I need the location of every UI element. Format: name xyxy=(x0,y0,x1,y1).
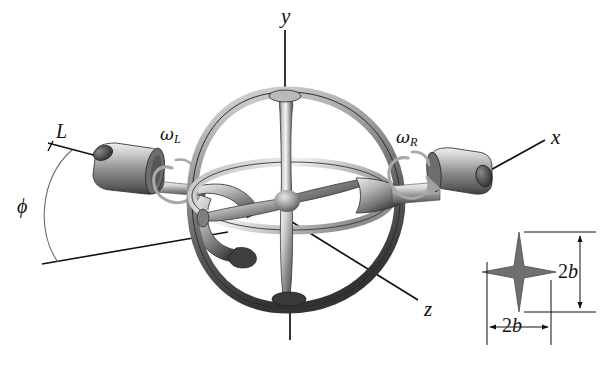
x-axis-line xyxy=(487,140,545,172)
inset-vertical-variable: b xyxy=(568,260,578,282)
inset-horizontal-variable: b xyxy=(512,314,522,336)
omega-L-subscript: L xyxy=(174,132,181,146)
rotor-hub xyxy=(274,190,300,212)
omega-R-label: ωR xyxy=(396,129,417,149)
inset-horizontal-dimension-label: 2b xyxy=(502,315,522,335)
dimension-label-phi: ϕ xyxy=(17,196,27,216)
axis-label-x: x xyxy=(551,127,560,148)
figure-canvas: y x z L ϕ ωL ωR 2b 2b xyxy=(0,0,604,367)
omega-R-symbol: ω xyxy=(396,127,410,147)
inset-vertical-prefix: 2 xyxy=(558,260,568,282)
rotor-left-cap xyxy=(197,209,209,227)
omega-R-subscript: R xyxy=(410,135,417,149)
rotor-arm-down xyxy=(280,200,292,303)
rotor-top-cap xyxy=(269,90,301,102)
axis-label-z: z xyxy=(424,299,432,320)
rotor-bottom-cap xyxy=(272,292,306,306)
omega-L-label: ωL xyxy=(160,126,181,146)
inset-horizontal-prefix: 2 xyxy=(502,314,512,336)
phi-arc xyxy=(44,150,72,262)
inset-star-shape xyxy=(482,232,556,312)
inset-vertical-dimension-label: 2b xyxy=(558,261,578,281)
inset-cross-section xyxy=(482,232,596,345)
rotor-arm-up xyxy=(280,96,293,200)
dimension-label-L: L xyxy=(56,121,67,141)
axis-label-y: y xyxy=(281,6,290,27)
omega-L-symbol: ω xyxy=(160,124,174,144)
gyroscope-illustration xyxy=(0,0,604,367)
